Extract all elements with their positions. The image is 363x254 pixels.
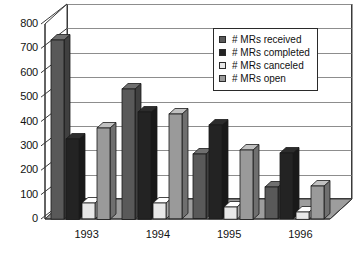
bar: [51, 40, 64, 219]
bar: [122, 89, 135, 219]
bar: [169, 114, 182, 219]
bar-chart: 0100200300400500600700800 19931994199519…: [0, 0, 363, 254]
legend-item: # MRs received: [219, 33, 310, 46]
x-axis-category-label: 1995: [194, 229, 264, 240]
legend-swatch-icon: [219, 36, 226, 43]
bar: [240, 150, 253, 219]
bar: [311, 186, 324, 219]
legend-item: # MRs open: [219, 72, 310, 85]
bar: [193, 154, 206, 219]
legend-label: # MRs completed: [232, 48, 310, 58]
bar: [296, 212, 309, 219]
bar: [97, 128, 110, 219]
bar: [66, 139, 79, 219]
legend-item: # MRs completed: [219, 46, 310, 59]
legend-label: # MRs received: [232, 35, 301, 45]
bar: [138, 112, 151, 219]
legend-swatch-icon: [219, 49, 226, 56]
bar: [224, 207, 237, 219]
legend-label: # MRs canceled: [232, 61, 304, 71]
x-axis-category-label: 1993: [52, 229, 122, 240]
bar: [209, 125, 222, 219]
x-axis-category-label: 1996: [265, 229, 335, 240]
x-axis-category-label: 1994: [123, 229, 193, 240]
legend-swatch-icon: [219, 62, 226, 69]
legend-swatch-icon: [219, 75, 226, 82]
chart-legend: # MRs received# MRs completed# MRs cance…: [213, 28, 318, 91]
legend-label: # MRs open: [232, 74, 286, 84]
bar: [153, 203, 166, 219]
bar: [265, 187, 278, 219]
bar: [280, 153, 293, 219]
legend-item: # MRs canceled: [219, 59, 310, 72]
bar: [82, 203, 95, 219]
